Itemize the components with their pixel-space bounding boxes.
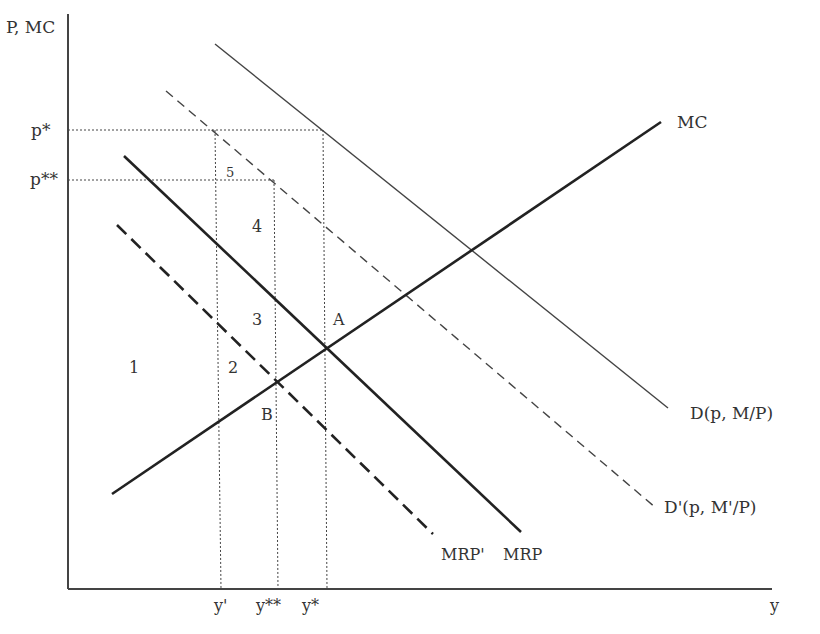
point-b: B [261, 407, 273, 423]
tick-y-prime: y' [214, 598, 227, 614]
label-mc: MC [677, 114, 707, 131]
point-a: A [333, 312, 345, 328]
region-4: 4 [252, 219, 262, 235]
diagram-svg [0, 0, 820, 634]
label-mrp: MRP [503, 547, 542, 563]
curve-d [215, 44, 668, 408]
curve-d-prime [166, 91, 656, 508]
tick-p-double-star: p** [30, 171, 58, 188]
label-mrp-prime: MRP' [441, 547, 485, 563]
guide-y-prime [215, 130, 221, 589]
tick-y-star: y* [302, 598, 319, 614]
diagram-canvas: P, MC y p* p** y' y** y* MC D(p, M/P) D'… [0, 0, 820, 634]
label-d: D(p, M/P) [690, 405, 773, 422]
curve-mrp-prime [117, 225, 433, 534]
curve-mc [112, 122, 661, 494]
tick-y-double-star: y** [256, 598, 281, 614]
curve-mrp [124, 156, 521, 532]
region-1: 1 [129, 360, 139, 376]
y-axis-label: P, MC [6, 19, 55, 36]
guide-y-star [323, 130, 327, 589]
tick-p-star: p* [31, 122, 50, 139]
region-2: 2 [228, 360, 238, 376]
label-d-prime: D'(p, M'/P) [664, 499, 757, 516]
region-3: 3 [252, 312, 262, 328]
x-axis-label: y [770, 598, 779, 614]
region-5: 5 [226, 166, 234, 179]
